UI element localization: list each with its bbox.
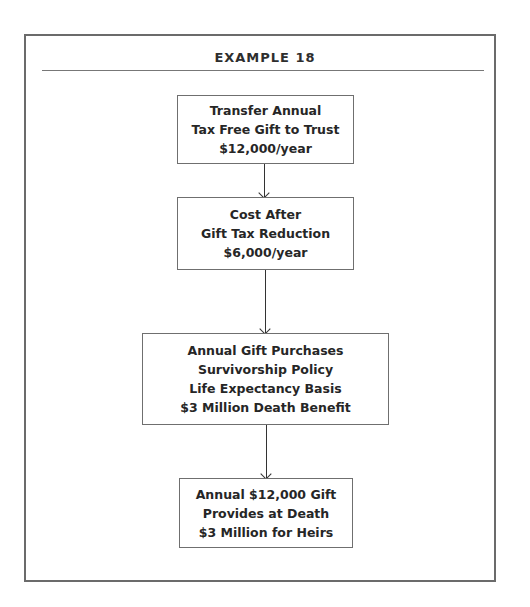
step-box-heirs-benefit: Annual $12,000 Gift Provides at Death $3… [179, 478, 353, 548]
step-3-line-3: Life Expectancy Basis [189, 379, 341, 398]
step-1-line-1: Transfer Annual [210, 101, 322, 120]
step-box-transfer-gift: Transfer Annual Tax Free Gift to Trust $… [177, 95, 354, 164]
step-1-line-3: $12,000/year [219, 139, 312, 158]
step-4-line-3: $3 Million for Heirs [199, 523, 334, 542]
arrow-down-icon [265, 270, 266, 333]
step-box-cost-after-reduction: Cost After Gift Tax Reduction $6,000/yea… [177, 197, 354, 270]
step-box-policy-purchase: Annual Gift Purchases Survivorship Polic… [142, 333, 389, 425]
step-3-line-4: $3 Million Death Benefit [180, 398, 350, 417]
title-divider [42, 70, 484, 71]
step-1-line-2: Tax Free Gift to Trust [192, 120, 340, 139]
step-3-line-1: Annual Gift Purchases [187, 341, 343, 360]
step-4-line-2: Provides at Death [203, 504, 330, 523]
diagram-title: EXAMPLE 18 [0, 50, 530, 65]
arrow-down-icon [264, 164, 265, 197]
step-3-line-2: Survivorship Policy [198, 360, 333, 379]
arrow-down-icon [266, 425, 267, 478]
step-2-line-2: Gift Tax Reduction [201, 224, 330, 243]
step-2-line-1: Cost After [230, 205, 301, 224]
step-2-line-3: $6,000/year [223, 243, 307, 262]
step-4-line-1: Annual $12,000 Gift [196, 485, 337, 504]
